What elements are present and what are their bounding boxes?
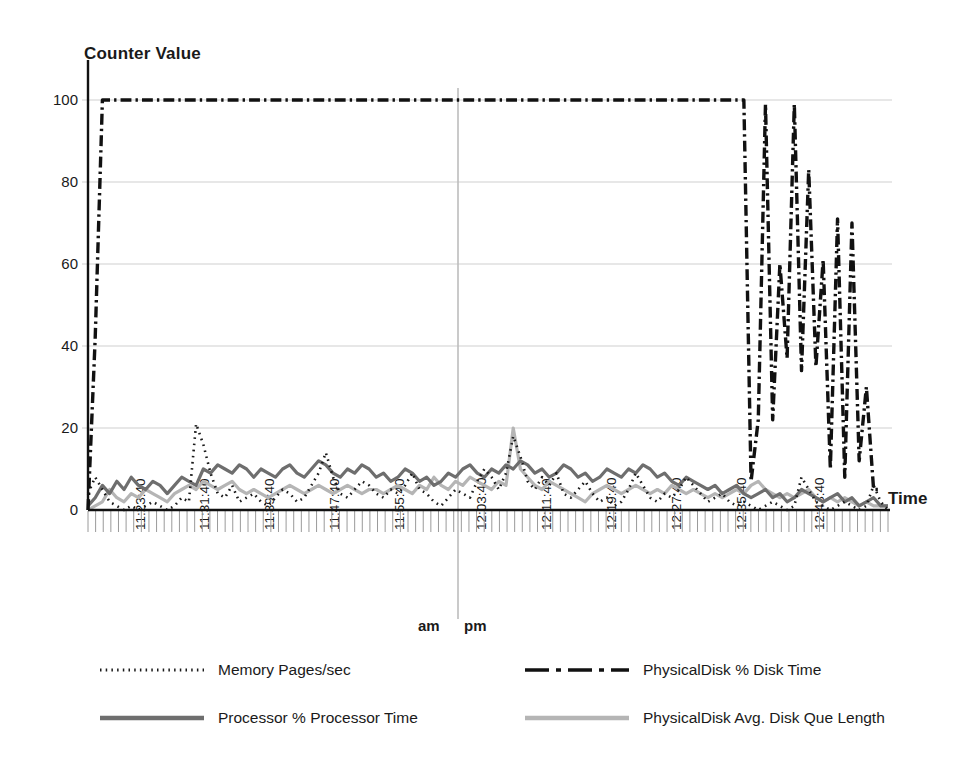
- x-axis-ticks: [88, 511, 888, 532]
- legend-swatch-processor-time: [100, 712, 204, 724]
- legend-label-processor-time: Processor % Processor Time: [218, 709, 418, 727]
- series-line: [88, 424, 888, 510]
- chart-legend: Memory Pages/sec PhysicalDisk % Disk Tim…: [0, 648, 978, 758]
- performance-monitor-chart: Counter Value Time 100 80 60 40 20 0 11:…: [0, 0, 978, 771]
- legend-item-processor-time[interactable]: Processor % Processor Time: [100, 706, 418, 730]
- legend-swatch-disk-queue: [525, 712, 629, 724]
- data-series-group: [88, 100, 888, 510]
- series-line: [88, 100, 881, 510]
- legend-item-disk-time[interactable]: PhysicalDisk % Disk Time: [525, 658, 821, 682]
- legend-label-disk-queue: PhysicalDisk Avg. Disk Que Length: [643, 709, 885, 727]
- legend-swatch-memory-pages: [100, 664, 204, 676]
- legend-item-memory-pages[interactable]: Memory Pages/sec: [100, 658, 351, 682]
- legend-swatch-disk-time: [525, 664, 629, 676]
- legend-label-disk-time: PhysicalDisk % Disk Time: [643, 661, 821, 679]
- series-line: [88, 428, 888, 510]
- legend-item-disk-queue[interactable]: PhysicalDisk Avg. Disk Que Length: [525, 706, 885, 730]
- gridlines: [82, 100, 892, 510]
- axis-lines: [88, 60, 890, 510]
- legend-label-memory-pages: Memory Pages/sec: [218, 661, 351, 679]
